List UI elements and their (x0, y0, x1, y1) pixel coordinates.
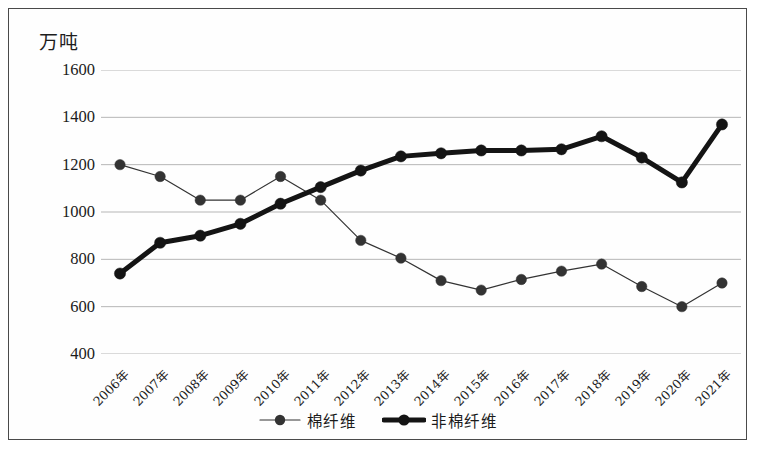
data-point (516, 145, 527, 156)
data-point (716, 119, 727, 130)
data-point (476, 145, 487, 156)
data-point (677, 301, 687, 311)
data-point (195, 230, 206, 241)
data-point (637, 281, 647, 291)
data-point (315, 182, 326, 193)
y-axis-tick-label: 400 (37, 344, 95, 364)
y-axis-tick-labels: 1600140012001000800600400 (31, 70, 95, 354)
x-axis-tick-label: 2014年 (409, 364, 454, 409)
data-point (235, 195, 245, 205)
data-point (114, 268, 125, 279)
data-point (436, 275, 446, 285)
x-axis-tick-label: 2008年 (168, 364, 213, 409)
data-point (556, 266, 566, 276)
x-axis-tick-label: 2013年 (369, 364, 414, 409)
y-axis-tick-label: 600 (37, 297, 95, 317)
x-axis-tick-label: 2016年 (489, 364, 534, 409)
legend-marker-icon (258, 412, 302, 428)
series-line (120, 124, 722, 273)
y-axis-tick-label: 800 (37, 249, 95, 269)
legend-marker-icon (382, 412, 426, 428)
data-point (476, 285, 486, 295)
legend-label: 棉纤维 (307, 409, 357, 431)
x-axis-tick-label: 2015年 (449, 364, 494, 409)
data-point (556, 144, 567, 155)
legend-label: 非棉纤维 (431, 409, 497, 431)
data-point (155, 237, 166, 248)
data-point (636, 152, 647, 163)
data-point (516, 274, 526, 284)
legend-item-1[interactable]: 棉纤维 (258, 409, 357, 431)
x-axis-tick-labels: 2006年2007年2008年2009年2010年2011年2012年2013年… (101, 358, 741, 416)
x-axis-tick-label: 2018年 (569, 364, 614, 409)
legend-item-2[interactable]: 非棉纤维 (382, 409, 497, 431)
data-point (195, 195, 205, 205)
data-point (355, 165, 366, 176)
x-axis-tick-label: 2020年 (650, 364, 695, 409)
data-point (396, 253, 406, 263)
data-point (275, 171, 285, 181)
data-point (596, 259, 606, 269)
data-point (596, 131, 607, 142)
series-2 (114, 119, 727, 279)
x-axis-tick-label: 2012年 (329, 364, 374, 409)
series-line (120, 165, 722, 307)
x-axis-tick-label: 2017年 (529, 364, 574, 409)
data-point (315, 195, 325, 205)
x-axis-tick-label: 2011年 (288, 364, 333, 409)
chart-legend: 棉纤维非棉纤维 (9, 409, 746, 431)
data-point (435, 148, 446, 159)
data-point (155, 171, 165, 181)
line-chart-svg (101, 70, 741, 354)
data-point (235, 218, 246, 229)
x-axis-tick-label: 2010年 (248, 364, 293, 409)
data-point (115, 159, 125, 169)
data-point (717, 278, 727, 288)
x-axis-tick-label: 2019年 (610, 364, 655, 409)
data-point (275, 198, 286, 209)
y-axis-tick-label: 1600 (37, 60, 95, 80)
data-point (356, 235, 366, 245)
data-point (395, 151, 406, 162)
x-axis-tick-label: 2007年 (128, 364, 173, 409)
x-axis-tick-label: 2009年 (208, 364, 253, 409)
x-axis-tick-label: 2006年 (88, 364, 133, 409)
y-axis-tick-label: 1000 (37, 202, 95, 222)
data-point (676, 177, 687, 188)
y-axis-tick-label: 1200 (37, 155, 95, 175)
y-axis-tick-label: 1400 (37, 107, 95, 127)
chart-frame: 万吨 1600140012001000800600400 2006年2007年2… (8, 8, 747, 440)
x-axis-tick-label: 2021年 (690, 364, 735, 409)
y-axis-unit-label: 万吨 (39, 27, 79, 54)
plot-area (101, 70, 741, 354)
gridlines (101, 70, 741, 354)
